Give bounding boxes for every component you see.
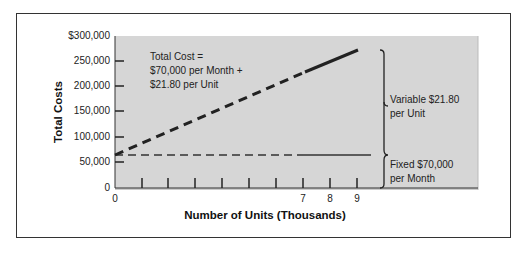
x-axis-title: Number of Units (Thousands) (184, 209, 346, 221)
cost-chart: $300,000 250,000 200,000 150,000 100,000… (0, 0, 525, 255)
x-tick-9: 9 (354, 193, 360, 204)
y-tick-100000: 100,000 (74, 131, 111, 142)
svg-text:$21.80 per Unit: $21.80 per Unit (150, 79, 219, 90)
svg-text:Fixed $70,000: Fixed $70,000 (390, 159, 454, 170)
y-tick-50000: 50,000 (79, 156, 110, 167)
y-tick-0: 0 (104, 182, 110, 193)
x-tick-labels: 0 7 8 9 (112, 193, 360, 204)
y-tick-150000: 150,000 (74, 105, 111, 116)
y-tick-200000: 200,000 (74, 80, 111, 91)
y-tick-labels: $300,000 250,000 200,000 150,000 100,000… (68, 30, 110, 193)
y-axis-title: Total Costs (52, 81, 64, 143)
x-tick-7: 7 (300, 193, 306, 204)
y-tick-250000: 250,000 (74, 55, 111, 66)
svg-text:Total Cost =: Total Cost = (150, 51, 203, 62)
x-tick-0: 0 (112, 193, 118, 204)
svg-text:Variable $21.80: Variable $21.80 (390, 94, 460, 105)
svg-text:$70,000 per Month +: $70,000 per Month + (150, 65, 243, 76)
x-tick-8: 8 (327, 193, 333, 204)
svg-text:per Month: per Month (390, 173, 435, 184)
svg-text:per Unit: per Unit (390, 108, 425, 119)
y-tick-300000: $300,000 (68, 30, 110, 41)
